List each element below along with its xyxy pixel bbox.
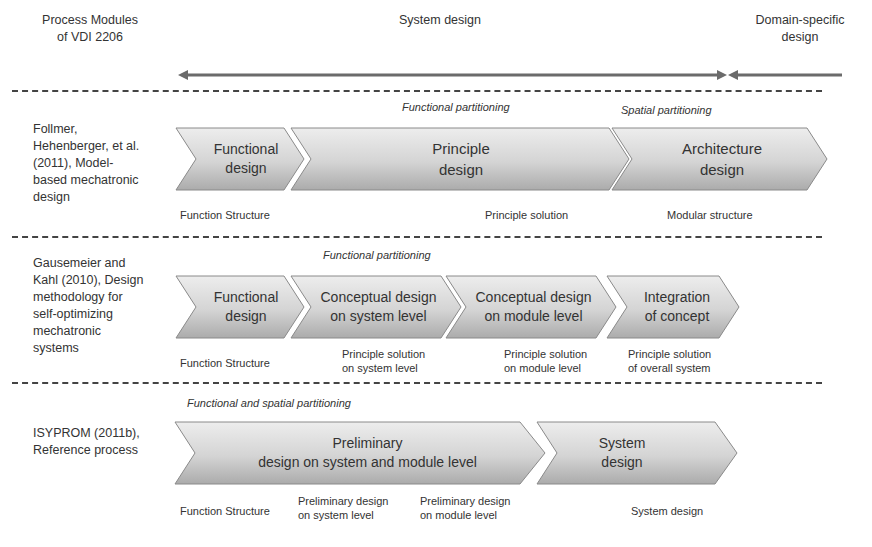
row2-step2-label: Conceptual design on system level xyxy=(311,276,446,338)
row3-output-1: Function Structure xyxy=(180,504,270,518)
divider xyxy=(12,382,822,384)
row2-step1-label: Functional design xyxy=(196,276,296,338)
row1-output-3: Modular structure xyxy=(667,208,753,222)
row3-source-label: ISYPROM (2011b), Reference process xyxy=(33,425,173,459)
row1-annotation-spatial: Spatial partitioning xyxy=(621,104,712,116)
domain-specific-arrow xyxy=(0,0,872,100)
row1-output-2: Principle solution xyxy=(485,208,568,222)
row2-step4-label: Integration of concept xyxy=(627,276,727,338)
row3-step1-label: Preliminary design on system and module … xyxy=(195,422,540,484)
row2-output-3: Principle solution on module level xyxy=(504,347,587,375)
row1-step1-label: Functional design xyxy=(196,128,296,190)
divider xyxy=(12,90,822,92)
row3-annotation-functional-spatial: Functional and spatial partitioning xyxy=(187,397,351,409)
row2-output-1: Function Structure xyxy=(180,356,270,370)
row2-output-4: Principle solution of overall system xyxy=(628,347,711,375)
row1-source-label: Follmer, Hehenberger, et al. (2011), Mod… xyxy=(33,121,163,206)
row3-output-3: Preliminary design on module level xyxy=(420,494,510,522)
row1-step2-label: Principle design xyxy=(311,128,611,190)
row1-annotation-functional: Functional partitioning xyxy=(402,101,510,113)
row3-output-4: System design xyxy=(631,504,703,518)
row3-output-2: Preliminary design on system level xyxy=(298,494,388,522)
row1-output-1: Function Structure xyxy=(180,208,270,222)
row3-step2-label: System design xyxy=(557,422,687,484)
row2-annotation-functional: Functional partitioning xyxy=(323,249,431,261)
row2-source-label: Gausemeier and Kahl (2010), Design metho… xyxy=(33,255,173,357)
row1-step3-label: Architecture design xyxy=(632,128,812,190)
row2-output-2: Principle solution on system level xyxy=(342,347,425,375)
row2-step3-label: Conceptual design on module level xyxy=(466,276,601,338)
divider xyxy=(12,236,822,238)
